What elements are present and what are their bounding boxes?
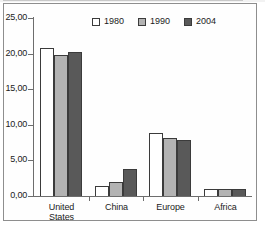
x-axis-separator-tick <box>89 196 90 201</box>
y-axis-tick-label: 10,00 <box>0 120 27 129</box>
legend-label-1990: 1990 <box>150 17 170 26</box>
bar-2004-africa[interactable] <box>232 189 246 196</box>
y-axis-tick-label-text: 25,00 <box>0 13 27 22</box>
y-axis-tick-label-text: 10,00 <box>0 120 27 129</box>
scan-top-crop-line <box>3 0 243 1</box>
y-axis-line <box>33 17 34 197</box>
y-axis-tick-label: 0,00 <box>0 191 27 200</box>
bar-1990-china[interactable] <box>109 182 123 196</box>
y-axis-tick <box>28 196 33 197</box>
x-axis-separator-tick <box>143 196 144 201</box>
bar-group <box>95 18 137 196</box>
category-label-africa: Africa <box>198 202 253 212</box>
bar-1980-china[interactable] <box>95 186 109 196</box>
category-label-line: China <box>89 202 144 212</box>
y-axis-tick <box>28 89 33 90</box>
y-axis-tick-label-text: 0,00 <box>0 191 27 200</box>
bar-2004-europe[interactable] <box>177 140 191 196</box>
y-axis-tick-label-text: 15,00 <box>0 84 27 93</box>
category-label-line: Africa <box>198 202 253 212</box>
category-label-line: States <box>34 212 89 222</box>
bar-1990-united-states[interactable] <box>54 55 68 196</box>
bar-group-bars <box>149 18 191 196</box>
legend-item-1990[interactable]: 1990 <box>138 17 170 26</box>
bar-1990-europe[interactable] <box>163 138 177 196</box>
y-axis-tick <box>28 160 33 161</box>
category-label-line: United <box>34 202 89 212</box>
bar-2004-united-states[interactable] <box>68 52 82 196</box>
legend-item-2004[interactable]: 2004 <box>184 17 216 26</box>
bar-1990-africa[interactable] <box>218 189 232 196</box>
bar-group-bars <box>40 18 82 196</box>
legend-label-2004: 2004 <box>196 17 216 26</box>
chart-legend: 198019902004 <box>92 17 216 26</box>
legend-swatch-2004 <box>184 18 192 26</box>
bar-group <box>204 18 246 196</box>
y-axis-tick-label-text: 5,00 <box>0 155 27 164</box>
category-label-china: China <box>89 202 144 212</box>
bar-chart-figure: 0,005,0010,0015,0020,0025,00 UnitedState… <box>0 0 265 235</box>
category-label-europe: Europe <box>143 202 198 212</box>
bar-1980-united-states[interactable] <box>40 48 54 196</box>
y-axis-tick-label: 20,00 <box>0 49 27 58</box>
legend-swatch-1990 <box>138 18 146 26</box>
scan-top-crop-strip <box>0 0 265 2</box>
legend-swatch-1980 <box>92 18 100 26</box>
x-axis-separator-tick <box>198 196 199 201</box>
bar-group <box>40 18 82 196</box>
y-axis-tick-label: 5,00 <box>0 155 27 164</box>
y-axis-tick-label: 25,00 <box>0 13 27 22</box>
bar-1980-africa[interactable] <box>204 189 218 196</box>
legend-item-1980[interactable]: 1980 <box>92 17 124 26</box>
bar-group <box>149 18 191 196</box>
y-axis-tick-label: 15,00 <box>0 84 27 93</box>
y-axis-tick <box>28 125 33 126</box>
y-axis-tick <box>28 54 33 55</box>
legend-label-1980: 1980 <box>104 17 124 26</box>
bar-group-bars <box>95 18 137 196</box>
category-label-united-states: UnitedStates <box>34 202 89 222</box>
bar-group-bars <box>204 18 246 196</box>
bar-2004-china[interactable] <box>123 169 137 196</box>
bar-1980-europe[interactable] <box>149 133 163 196</box>
y-axis-tick <box>28 18 33 19</box>
y-axis-tick-label-text: 20,00 <box>0 49 27 58</box>
category-label-line: Europe <box>143 202 198 212</box>
